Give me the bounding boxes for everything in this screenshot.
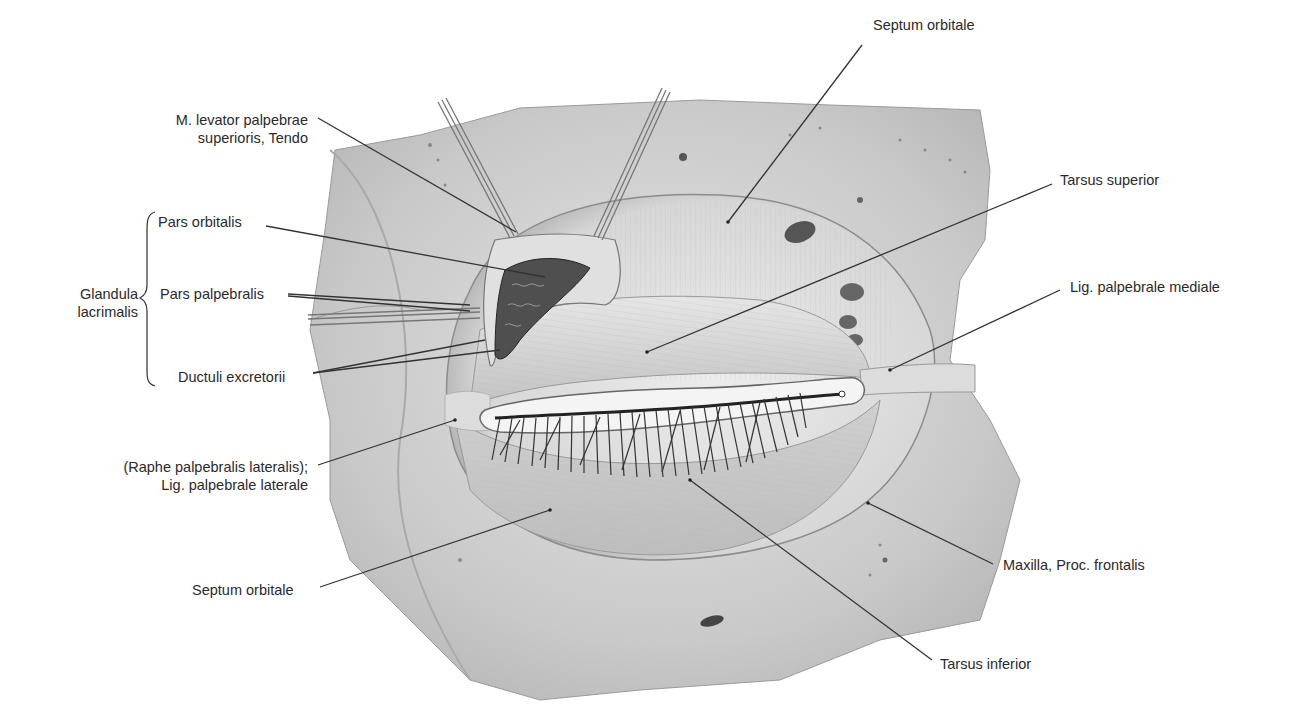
label-lig-palpebrale-mediale: Lig. palpebrale mediale xyxy=(1070,278,1220,296)
label-glandula-line1: Glandula xyxy=(40,285,138,303)
label-raphe-line2: Lig. palpebrale laterale xyxy=(60,476,308,494)
label-levator-line1: M. levator palpebrae xyxy=(130,111,308,129)
label-ductuli-excretorii: Ductuli excretorii xyxy=(178,368,285,386)
label-levator-tendo: M. levator palpebrae superioris, Tendo xyxy=(130,111,308,147)
label-septum-orbitale-bottom: Septum orbitale xyxy=(192,581,294,599)
label-glandula-lacrimalis: Glandula lacrimalis xyxy=(40,285,138,321)
label-pars-palpebralis: Pars palpebralis xyxy=(160,285,264,303)
label-tarsus-superior: Tarsus superior xyxy=(1060,171,1159,189)
label-pars-orbitalis: Pars orbitalis xyxy=(158,213,242,231)
label-tarsus-inferior: Tarsus inferior xyxy=(940,655,1031,673)
label-septum-orbitale-top: Septum orbitale xyxy=(873,16,975,34)
label-levator-line2: superioris, Tendo xyxy=(130,129,308,147)
eyelid-anatomy-illustration xyxy=(0,0,1311,721)
label-raphe-line1: (Raphe palpebralis lateralis); xyxy=(60,458,308,476)
label-raphe-lig-laterale: (Raphe palpebralis lateralis); Lig. palp… xyxy=(60,458,308,494)
glandula-brace xyxy=(140,212,155,386)
label-maxilla-proc-frontalis: Maxilla, Proc. frontalis xyxy=(1003,556,1145,574)
label-glandula-line2: lacrimalis xyxy=(40,303,138,321)
